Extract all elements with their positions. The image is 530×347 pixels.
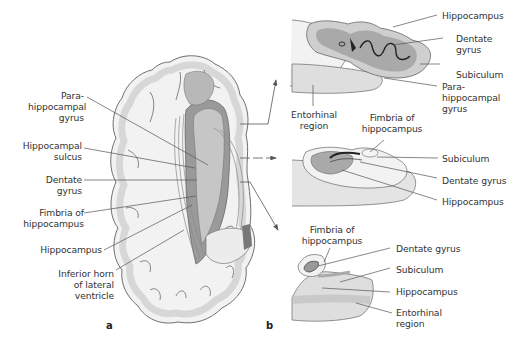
section-middle-drawing xyxy=(292,147,416,206)
label-fimbria-of-hippocampus: Fimbria of hippocampus xyxy=(4,207,84,229)
section-bottom-drawing xyxy=(292,254,373,321)
label-middle-fimbria-of-hippocampus: Fimbria of hippocampus xyxy=(360,112,424,134)
label-middle-dentate-gyrus: Dentate gyrus xyxy=(442,175,506,186)
label-parahippocampal-gyrus: Para- hippocampal gyrus xyxy=(28,90,84,123)
panel-letter-a: a xyxy=(106,320,113,331)
label-top-parahippocampal-gyrus: Para- hippocampal gyrus xyxy=(442,81,500,114)
label-bottom-subiculum: Subiculum xyxy=(396,264,443,275)
label-top-hippocampus: Hippocampus xyxy=(442,10,504,21)
label-hippocampal-sulcus: Hippocampal sulcus xyxy=(10,140,82,162)
label-bottom-entorhinal-region: Entorhinal region xyxy=(396,307,442,329)
label-middle-hippocampus: Hippocampus xyxy=(442,196,504,207)
hippocampus-anatomy-figure: Para- hippocampal gyrus Hippocampal sulc… xyxy=(0,0,530,347)
label-hippocampus: Hippocampus xyxy=(20,244,102,255)
section-top-drawing xyxy=(290,20,431,93)
label-top-dentate-gyrus: Dentate gyrus xyxy=(456,33,492,55)
label-top-entorhinal-region: Entorhinal region xyxy=(286,109,342,131)
panel-letter-b: b xyxy=(266,320,273,331)
label-dentate-gyrus: Dentate gyrus xyxy=(30,174,82,196)
label-bottom-dentate-gyrus: Dentate gyrus xyxy=(396,243,460,254)
label-bottom-fimbria-of-hippocampus: Fimbria of hippocampus xyxy=(300,224,364,246)
label-middle-subiculum: Subiculum xyxy=(442,153,489,164)
label-top-subiculum: Subiculum xyxy=(456,69,503,80)
label-bottom-hippocampus: Hippocampus xyxy=(396,286,458,297)
label-inferior-horn-of-lateral-ventricle: Inferior horn of lateral ventricle xyxy=(24,268,114,301)
brain-hemisphere-drawing xyxy=(111,56,255,323)
